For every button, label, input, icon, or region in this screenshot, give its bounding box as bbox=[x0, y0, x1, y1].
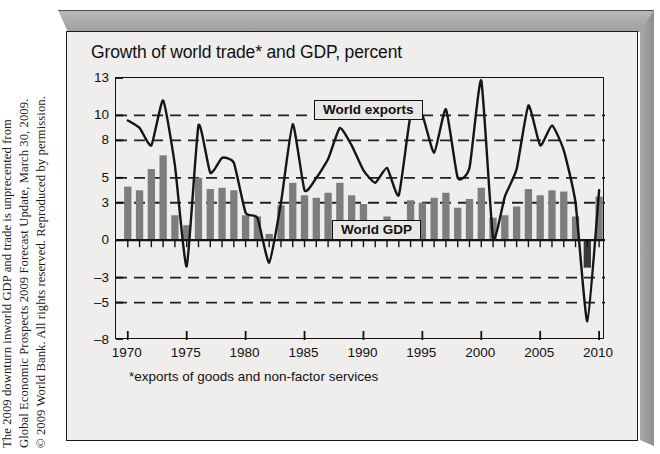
figure-frame: Growth of world trade* and GDP, percent … bbox=[58, 10, 654, 446]
y-axis-ticks: 13108530–3–5–8 bbox=[77, 77, 109, 339]
x-tick-label: 2005 bbox=[524, 345, 554, 360]
y-tick-label: 10 bbox=[94, 107, 109, 122]
x-tick-label: 1985 bbox=[288, 345, 318, 360]
x-tick-label: 1975 bbox=[171, 345, 201, 360]
chart-panel: Growth of world trade* and GDP, percent … bbox=[66, 31, 638, 441]
frame-bevel-right bbox=[640, 10, 654, 446]
x-tick-label: 1990 bbox=[347, 345, 377, 360]
y-tick-label: 0 bbox=[101, 232, 109, 247]
x-tick-label: 2010 bbox=[583, 345, 613, 360]
y-tick-label: –5 bbox=[94, 294, 109, 309]
x-tick-label: 1980 bbox=[230, 345, 260, 360]
credit-block: The 2009 downturn inworld GDP and trade … bbox=[0, 0, 56, 454]
series-label-world-exports: World exports bbox=[314, 100, 423, 120]
credit-line-2: Global Economic Prospects 2009 Forecast … bbox=[17, 99, 32, 448]
chart-footnote: *exports of goods and non-factor service… bbox=[129, 369, 378, 384]
x-tick-label: 2000 bbox=[465, 345, 495, 360]
x-tick-label: 1970 bbox=[112, 345, 142, 360]
plot-wrapper: 13108530–3–5–8 1970197519801985199019952… bbox=[67, 32, 639, 442]
y-tick-label: 3 bbox=[101, 194, 109, 209]
credit-line-3: © 2009 World Bank. All rights reserved. … bbox=[34, 96, 49, 448]
series-label-world-gdp: World GDP bbox=[332, 220, 421, 240]
y-tick-label: 8 bbox=[101, 132, 109, 147]
y-tick-label: 5 bbox=[101, 169, 109, 184]
x-axis-tick-marks bbox=[128, 240, 599, 340]
y-tick-label: –8 bbox=[94, 332, 109, 347]
frame-bevel-top bbox=[58, 10, 654, 33]
credit-line-1: The 2009 downturn inworld GDP and trade … bbox=[0, 119, 15, 448]
y-tick-label: –3 bbox=[94, 269, 109, 284]
y-tick-label: 13 bbox=[94, 70, 109, 85]
x-tick-label: 1995 bbox=[406, 345, 436, 360]
x-axis-ticks: 197019751980198519901995200020052010 bbox=[115, 345, 604, 365]
